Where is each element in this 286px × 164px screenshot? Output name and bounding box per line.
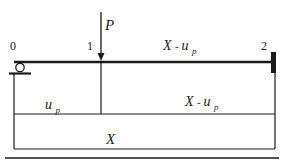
lower-right-label: X - u p [184, 94, 219, 112]
load-arrow-icon [98, 12, 105, 61]
node-label-2: 2 [261, 39, 267, 53]
lower-left-sub: p [55, 105, 61, 115]
beam-segment-label: X - u p [162, 38, 197, 56]
roller-support-icon [9, 63, 31, 73]
lower-left-var: u [45, 97, 52, 112]
lower-right-var: u [203, 94, 210, 109]
load-label: P [104, 17, 114, 33]
beam-diagram: 0 1 2 P X - u p u p X - u p X [0, 0, 286, 164]
beam-segment-sub: p [191, 46, 197, 56]
lower-left-label: u p [45, 97, 61, 115]
beam-segment-var: u [181, 38, 188, 53]
node-label-1: 1 [87, 39, 93, 53]
lower-right-sub: p [213, 102, 219, 112]
beam-segment-main: X [162, 38, 172, 53]
node-label-0: 0 [10, 39, 16, 53]
fixed-support-icon [271, 52, 276, 73]
lower-right-main: X [184, 94, 194, 109]
total-label: X [105, 131, 116, 147]
